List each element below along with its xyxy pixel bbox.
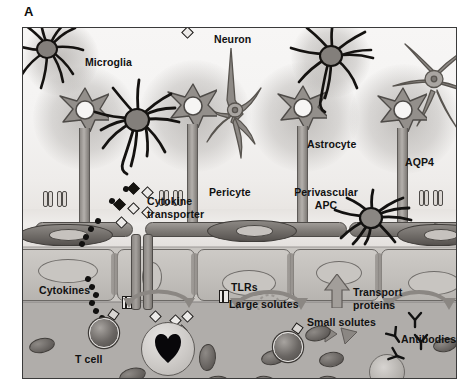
pericyte-nucleus (236, 225, 273, 237)
bbb-diagram: Microglia Neuron Astrocyte AQP4 Cytokine… (22, 27, 457, 379)
microglia-cell (87, 76, 191, 176)
tight-junction (111, 253, 118, 295)
label-t-cell: T cell (75, 353, 102, 365)
label-large-solutes: Large solutes (229, 298, 299, 310)
label-pericyte: Pericyte (209, 186, 251, 198)
label-monocyte: Monocyte (135, 378, 185, 379)
label-antibodies: Antibodies (401, 333, 456, 345)
panel-letter: A (24, 4, 34, 19)
figure-root: A (0, 0, 474, 392)
pericyte (207, 220, 297, 242)
astrocyte-soma (375, 86, 427, 132)
microglia-cell (285, 27, 381, 116)
aqp4-channel (43, 191, 52, 205)
t-cell (273, 332, 303, 362)
label-cytokines: Cytokines (39, 284, 90, 296)
monocyte-nucleus (151, 332, 185, 364)
t-cell (89, 318, 119, 348)
microglia-cell (22, 27, 93, 98)
pericyte-nucleus (424, 229, 457, 241)
aqp4-channel (433, 190, 442, 204)
label-transport-proteins-text: Transport proteins (353, 286, 402, 311)
antibody (405, 310, 425, 330)
label-transport-proteins: Transport proteins (353, 286, 427, 312)
label-small-solutes: Small solutes (307, 316, 376, 328)
small-solutes-arrow (323, 274, 351, 308)
label-cytokine-transporter-text: Cytokine transporter (147, 195, 204, 220)
label-aqp4: AQP4 (405, 156, 434, 168)
aqp4-channel (419, 190, 428, 204)
label-astrocyte: Astrocyte (307, 138, 356, 150)
label-cytokine-transporter: Cytokine transporter (147, 195, 223, 221)
antibody (387, 346, 407, 366)
transcytosis-arrow (121, 286, 199, 308)
label-microglia: Microglia (85, 56, 132, 68)
label-neuron: Neuron (214, 33, 251, 45)
label-tlrs: TLRs (231, 281, 258, 293)
label-perivascular-apc-text: Perivascular APC (294, 186, 358, 211)
pericyte (22, 224, 113, 246)
aqp4-channel (57, 191, 66, 205)
label-perivascular-apc: Perivascular APC (289, 186, 363, 212)
